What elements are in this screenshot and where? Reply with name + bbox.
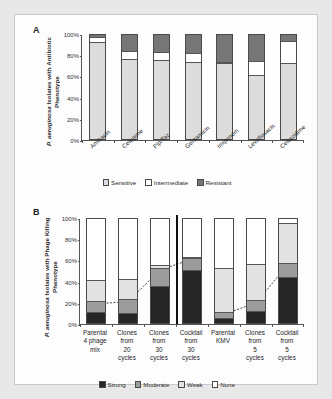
stacked-bar: [280, 34, 297, 140]
panel-a-legend: SensitiveIntermediateResistant: [15, 179, 319, 186]
bar-segment-none: [119, 219, 137, 280]
legend-label: Strong: [108, 381, 126, 388]
bar-segment-sensitive: [154, 61, 169, 139]
panel-a-letter: A: [33, 25, 40, 35]
legend-item: None: [212, 381, 235, 388]
x-axis-label: Clones from 5 cycles: [239, 329, 271, 363]
bar-segment-moderate: [151, 269, 169, 287]
legend-swatch: [197, 179, 204, 186]
x-axis-tick-mark: [303, 140, 304, 143]
panel-b-plot-area: 0%20%40%60%80%100%: [79, 219, 303, 325]
bar-segment-intermediate: [186, 54, 201, 63]
panel-b-y-axis-title: P. aeruginosa Isolates with Phage Killin…: [43, 217, 59, 337]
legend-swatch: [145, 179, 152, 186]
stacked-bar: [121, 34, 138, 140]
stacked-bar: [246, 218, 266, 324]
y-axis-tick-mark: [78, 261, 81, 262]
x-axis-tick-mark: [176, 324, 177, 327]
stacked-bar: [89, 34, 106, 140]
bar-segment-resistant: [122, 35, 137, 52]
legend-label: Weak: [187, 381, 203, 388]
panel-a-y-axis-title: P. aeruginosa Isolates with Antibiotic P…: [45, 33, 61, 151]
bar-segment-sensitive: [217, 64, 232, 139]
stacked-bar: [86, 218, 106, 324]
x-axis-label: Parental KMV: [207, 329, 239, 346]
bar-segment-weak: [119, 280, 137, 300]
stacked-bar: [278, 218, 298, 324]
y-axis-tick-mark: [78, 283, 81, 284]
stacked-bar: [216, 34, 233, 140]
panel-b-legend: StrongModerateWeakNone: [15, 381, 319, 388]
y-axis-tick-mark: [78, 240, 81, 241]
y-axis-tick-mark: [80, 56, 83, 57]
bar-segment-none: [215, 219, 233, 269]
y-axis-tick-mark: [80, 99, 83, 100]
panel-b-letter: B: [33, 207, 40, 217]
bar-segment-weak: [87, 281, 105, 302]
bar-segment-strong: [119, 314, 137, 323]
legend-label: Sensitive: [111, 179, 136, 186]
bar-segment-none: [247, 219, 265, 265]
bar-segment-sensitive: [186, 63, 201, 139]
x-axis-tick-mark: [272, 324, 273, 327]
x-axis-tick-mark: [80, 324, 81, 327]
bar-segment-strong: [183, 271, 201, 323]
x-axis-tick-mark: [177, 140, 178, 143]
bar-segment-none: [183, 219, 201, 257]
bar-segment-sensitive: [122, 60, 137, 139]
x-axis-tick-mark: [241, 140, 242, 143]
x-axis-tick-mark: [114, 140, 115, 143]
bar-segment-intermediate: [249, 62, 264, 76]
legend-item: Resistant: [197, 179, 231, 186]
y-axis-tick-mark: [80, 120, 83, 121]
bar-segment-resistant: [249, 35, 264, 62]
legend-label: Moderate: [143, 381, 169, 388]
bar-segment-moderate: [279, 264, 297, 279]
legend-swatch: [99, 381, 106, 388]
x-axis-tick-mark: [272, 140, 273, 143]
x-axis-tick-mark: [240, 324, 241, 327]
x-axis-tick-mark: [303, 324, 304, 327]
legend-item: Sensitive: [103, 179, 137, 186]
bar-segment-sensitive: [281, 64, 296, 139]
legend-swatch: [212, 381, 219, 388]
stacked-bar: [248, 34, 265, 140]
legend-label: Intermediate: [154, 179, 188, 186]
panel-b: B P. aeruginosa Isolates with Phage Kill…: [15, 205, 319, 386]
stacked-bar: [185, 34, 202, 140]
bar-segment-strong: [215, 319, 233, 323]
legend-swatch: [103, 179, 110, 186]
legend-swatch: [178, 381, 185, 388]
x-axis-label: Parental 4 phage mix: [79, 329, 111, 354]
x-axis-tick-mark: [112, 324, 113, 327]
bar-segment-none: [151, 219, 169, 266]
bar-segment-strong: [279, 278, 297, 323]
bar-segment-moderate: [87, 302, 105, 312]
bar-segment-weak: [279, 224, 297, 264]
legend-label: None: [220, 381, 235, 388]
group-divider: [176, 215, 178, 325]
legend-item: Strong: [99, 381, 126, 388]
figure-container: A P. aeruginosa Isolates with Antibiotic…: [14, 14, 318, 385]
y-axis-tick-mark: [78, 219, 81, 220]
legend-item: Intermediate: [145, 179, 188, 186]
bar-segment-strong: [151, 287, 169, 323]
stacked-bar: [118, 218, 138, 324]
stacked-bar: [153, 34, 170, 140]
stacked-bar: [182, 218, 202, 324]
bar-segment-weak: [215, 269, 233, 313]
stacked-bar: [150, 218, 170, 324]
bar-segment-weak: [247, 265, 265, 301]
bar-segment-intermediate: [154, 53, 169, 61]
legend-item: Moderate: [135, 381, 170, 388]
x-axis-tick-mark: [145, 140, 146, 143]
panel-a-y-axis-title-text: P. aeruginosa Isolates with Antibiotic P…: [45, 38, 60, 147]
y-axis-tick-mark: [80, 77, 83, 78]
bar-segment-resistant: [281, 35, 296, 42]
bar-segment-resistant: [217, 35, 232, 63]
panel-a: A P. aeruginosa Isolates with Antibiotic…: [15, 19, 319, 205]
x-axis-tick-mark: [208, 324, 209, 327]
x-axis-label: Cocktail from 30 cycles: [175, 329, 207, 363]
bar-segment-intermediate: [122, 52, 137, 60]
bar-segment-moderate: [247, 301, 265, 311]
